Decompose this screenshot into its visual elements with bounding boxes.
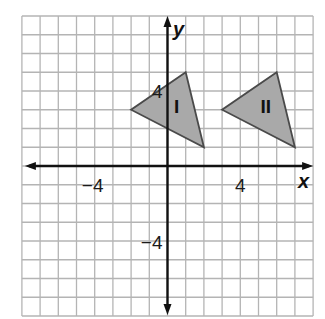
x-axis-arrow-right xyxy=(302,162,313,170)
x-axis-label: x xyxy=(297,170,310,192)
y-axis-label: y xyxy=(172,18,185,40)
axes xyxy=(25,16,313,315)
y-axis-arrow-up xyxy=(164,16,172,27)
x-tick-label-4: 4 xyxy=(235,175,246,196)
y-tick-label-neg4: −4 xyxy=(141,232,163,253)
coordinate-plane: III x y −4 4 4 −4 xyxy=(0,0,325,319)
x-axis-arrow-left xyxy=(25,162,36,170)
y-tick-label-4: 4 xyxy=(152,81,163,102)
x-tick-label-neg4: −4 xyxy=(82,175,104,196)
triangle-label-ii: II xyxy=(260,96,271,117)
y-axis-arrow-down xyxy=(164,304,172,315)
triangle-label-i: I xyxy=(174,96,179,117)
